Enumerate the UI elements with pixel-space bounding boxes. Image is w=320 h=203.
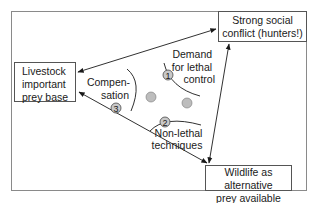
node-livestock: Livestock important prey base [14,62,76,102]
circle-marker-1 [146,92,156,102]
label-demand-1: Demand [172,48,212,60]
node-conflict: Strong social conflict (hunters!) [218,11,307,42]
label-nonlethal-1: Non-lethal [155,127,203,139]
label-compensation-1: Compen- [87,76,131,88]
node-livestock-line-3: prey base [22,91,75,104]
label-nonlethal-2: techniques [152,139,203,151]
svg-text:Demand for lethal cont: Demand for lethal control [172,48,215,85]
node-livestock-line-1: Livestock [22,65,75,78]
node-wildlife: Wildlife as alternative prey available [205,165,292,191]
node-livestock-line-2: important [22,78,75,91]
label-demand-3: control [183,73,215,85]
svg-text:Non-lethal techniques: Non-lethal techniques [152,127,206,151]
node-wildlife-line-1: Wildlife as alternative [206,166,291,192]
badge-3: 3 [113,104,118,114]
badge-2: 2 [162,118,167,128]
svg-text:Compen- sation: Compen- sation [87,76,133,101]
node-wildlife-line-2: prey available [206,192,291,203]
circle-marker-2 [182,98,192,108]
label-demand-2: for lethal [172,61,212,73]
node-conflict-line-2: conflict (hunters!) [219,27,306,40]
label-compensation-2: sation [101,89,129,101]
badge-1: 1 [165,71,170,81]
node-conflict-line-1: Strong social [219,14,306,27]
